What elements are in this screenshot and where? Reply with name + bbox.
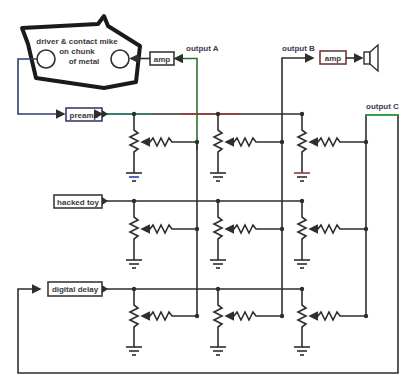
svg-text:on chunk: on chunk — [59, 47, 95, 56]
pot-r1c1-icon — [126, 112, 199, 181]
circuit-schematic: driver & contact mike on chunk of metal … — [0, 0, 411, 382]
svg-text:of metal: of metal — [69, 57, 100, 66]
hacked-toy-label: hacked toy — [57, 198, 99, 207]
speaker-icon — [364, 45, 378, 71]
pot-r2c3-icon — [294, 199, 368, 268]
output-c-label: output C — [366, 102, 399, 111]
pot-r2c1-icon — [126, 199, 199, 268]
digital-delay-label: digital delay — [52, 285, 99, 294]
output-a-label: output A — [186, 44, 219, 53]
output-b-label: output B — [282, 44, 315, 53]
mixer-matrix — [126, 112, 368, 355]
pot-r3c2-icon — [210, 287, 284, 355]
preamp-label: preamp — [70, 111, 99, 120]
pot-r1c3-icon — [294, 112, 368, 181]
amp-a-label: amp — [154, 55, 171, 64]
svg-text:driver & contact mike: driver & contact mike — [36, 37, 118, 46]
pot-r3c1-icon — [126, 287, 199, 355]
pot-r3c3-icon — [294, 287, 368, 355]
amp-b-label: amp — [325, 54, 342, 63]
driver-icon — [111, 50, 129, 68]
contact-mike-icon — [37, 50, 55, 68]
pot-r2c2-icon — [210, 199, 284, 268]
pot-r1c2-icon — [210, 112, 284, 181]
